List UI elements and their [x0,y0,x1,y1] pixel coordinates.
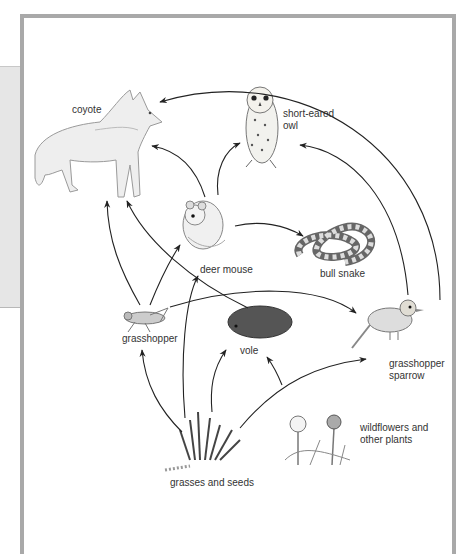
bull-snake-illustration [298,227,371,262]
wildflowers-illustration [285,415,350,465]
label-grasshopper-sparrow: grasshopper sparrow [389,358,445,382]
label-vole: vole [240,345,258,357]
vole-illustration [228,306,292,338]
grasshopper-sparrow-illustration [352,300,424,348]
grasshopper-illustration [124,308,168,332]
label-short-eared-owl: short-eared owl [283,108,334,132]
label-deer-mouse: deer mouse [200,264,253,276]
owl-illustration [246,87,278,168]
label-wildflowers: wildflowers and other plants [360,422,428,446]
label-grasshopper: grasshopper [122,333,178,345]
label-grasses-and-seeds: grasses and seeds [170,477,254,489]
grasses-illustration [165,412,240,470]
deer-mouse-illustration [183,201,225,249]
label-bull-snake: bull snake [320,268,365,280]
label-coyote: coyote [72,104,101,116]
